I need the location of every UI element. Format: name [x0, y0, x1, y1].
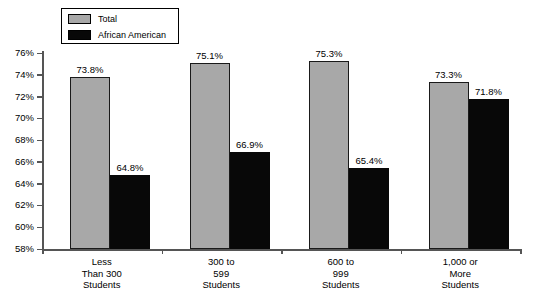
- legend-item-african-american: African American: [68, 28, 174, 42]
- bar-value-label: 75.3%: [303, 48, 355, 59]
- y-tick-mark: [37, 96, 42, 98]
- y-tick-mark: [37, 205, 42, 207]
- bar-value-label: 71.8%: [463, 86, 515, 97]
- gray-swatch-icon: [68, 14, 91, 24]
- plot-area: 76%74%72%70%68%66%64%62%60%58%73.8%64.8%…: [42, 53, 520, 249]
- bar-value-label: 66.9%: [224, 139, 276, 150]
- y-tick-label: 66%: [15, 156, 34, 167]
- x-axis-tick: [401, 249, 403, 254]
- bar-value-label: 75.1%: [184, 50, 236, 61]
- legend-label-total: Total: [98, 14, 117, 24]
- chart-legend: Total African American: [61, 8, 179, 44]
- y-tick-label: 64%: [15, 178, 34, 189]
- bar-african-american: [110, 175, 150, 249]
- y-tick-label: 58%: [15, 243, 34, 254]
- bar-chart: Total African American 76%74%72%70%68%66…: [0, 0, 536, 307]
- x-axis-tick: [162, 249, 164, 254]
- y-tick-label: 68%: [15, 134, 34, 145]
- y-tick-label: 60%: [15, 221, 34, 232]
- bar-total: [429, 82, 469, 249]
- y-tick-label: 62%: [15, 199, 34, 210]
- y-tick-mark: [37, 227, 42, 229]
- x-axis-category-label: Less Than 300 Students: [42, 256, 162, 291]
- y-tick-label: 74%: [15, 69, 34, 80]
- y-tick-mark: [37, 74, 42, 76]
- x-axis-tick: [42, 249, 44, 254]
- y-tick-mark: [37, 161, 42, 163]
- x-axis-category-label: 1,000 or More Students: [401, 256, 521, 291]
- bar-total: [190, 63, 230, 249]
- x-axis-tick: [520, 249, 522, 254]
- y-tick-mark: [37, 53, 42, 55]
- legend-item-total: Total: [68, 12, 174, 26]
- bar-value-label: 73.8%: [64, 64, 116, 75]
- black-swatch-icon: [68, 30, 91, 40]
- bar-value-label: 64.8%: [104, 162, 156, 173]
- y-tick-mark: [37, 183, 42, 185]
- bar-value-label: 65.4%: [343, 155, 395, 166]
- x-axis-category-label: 600 to 999 Students: [281, 256, 401, 291]
- bar-value-label: 73.3%: [423, 69, 475, 80]
- bar-african-american: [230, 152, 270, 249]
- legend-label-african-american: African American: [98, 30, 166, 40]
- y-tick-mark: [37, 140, 42, 142]
- y-tick-label: 72%: [15, 91, 34, 102]
- y-tick-label: 76%: [15, 47, 34, 58]
- bar-african-american: [469, 99, 509, 249]
- x-axis-category-label: 300 to 599 Students: [162, 256, 282, 291]
- x-axis-tick: [281, 249, 283, 254]
- y-tick-label: 70%: [15, 112, 34, 123]
- bar-african-american: [349, 168, 389, 249]
- y-tick-mark: [37, 118, 42, 120]
